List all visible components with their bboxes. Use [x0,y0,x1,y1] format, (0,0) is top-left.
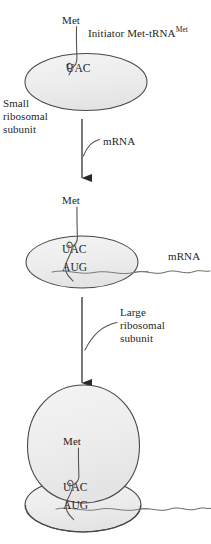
met-label-stage-3: Met [63,435,81,448]
mrna-step-label: mRNA [103,135,135,148]
transition-1-group [82,119,100,178]
met-label-stage-2: Met [62,194,80,207]
initiator-trna-label-text: Initiator Met-tRNA [88,27,176,39]
small-ribosomal-subunit-label: Small ribosomal subunit [3,97,48,136]
anticodon-uac-label-stage-1: UAC [66,62,91,76]
codon-aug-label-stage-2: AUG [62,261,87,275]
figure-canvas: Met Initiator Met-tRNAMet UAC Small ribo… [0,0,211,544]
large-subunit-leader-line [85,323,117,351]
met-label-stage-1: Met [62,14,80,27]
initiator-trna-label: Initiator Met-tRNAMet [88,27,188,40]
stage-3-group [25,385,211,532]
stage-2-group [26,207,210,288]
initiator-trna-label-superscript: Met [176,25,188,34]
codon-aug-label-stage-3: AUG [63,499,88,513]
anticodon-uac-label-stage-3: UAC [63,481,88,495]
diagram-illustration [0,0,211,544]
mrna-leader-line-1 [83,140,99,157]
transition-2-group [82,297,117,383]
anticodon-uac-label-stage-2: UAC [62,243,87,257]
mrna-strand-label-stage-2: mRNA [168,250,200,263]
large-ribosomal-subunit-label: Large ribosomal subunit [120,306,165,345]
